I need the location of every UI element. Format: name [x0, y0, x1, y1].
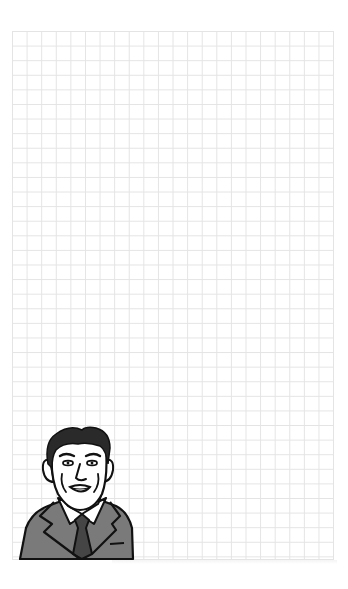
man-portrait-illustration — [12, 420, 142, 560]
sheet-shadow — [112, 560, 337, 564]
